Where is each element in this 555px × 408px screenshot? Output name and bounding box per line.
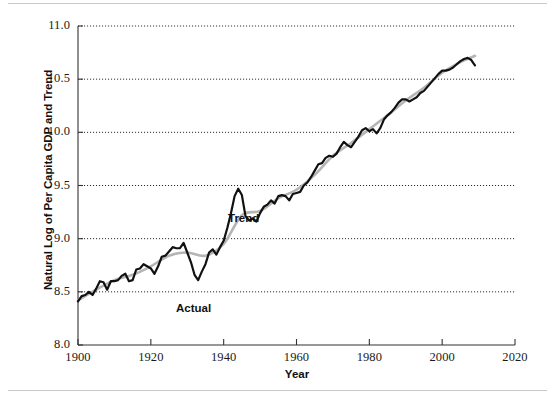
chart-plot-area <box>0 0 555 408</box>
x-tick-label: 1980 <box>344 350 394 365</box>
series-annotation-trend: Trend <box>228 212 259 224</box>
x-tick-label: 1960 <box>272 350 322 365</box>
y-tick-label: 11.0 <box>30 18 70 33</box>
x-tick-label: 1940 <box>199 350 249 365</box>
x-axis-title: Year <box>252 368 342 380</box>
x-tick-label: 2000 <box>417 350 467 365</box>
series-line-trend <box>78 56 475 301</box>
x-tick-label: 2020 <box>490 350 540 365</box>
figure-container: 8.08.59.09.510.010.511.0 190019201940196… <box>0 0 555 408</box>
series-annotation-actual: Actual <box>176 302 211 314</box>
x-tick-marks-group <box>78 339 515 345</box>
x-tick-label: 1900 <box>53 350 103 365</box>
axis-lines-group <box>78 26 515 345</box>
x-tick-label: 1920 <box>126 350 176 365</box>
y-axis-title: Natural Log of Per Capita GDP and Trend <box>42 35 54 325</box>
gridlines-group <box>78 26 515 292</box>
